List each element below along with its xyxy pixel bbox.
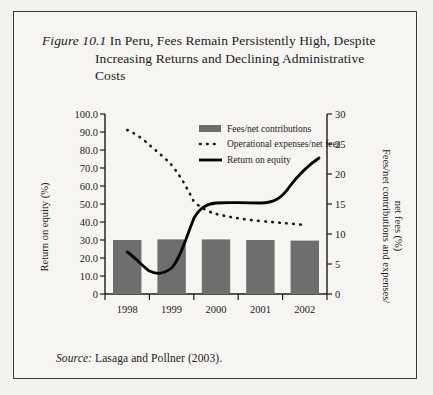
y-axis-tick-labels: 100.0 90.0 80.0 70.0 60.0 50.0 40.0 30.0… — [74, 109, 98, 300]
x-tick-1999: 1999 — [161, 304, 182, 315]
figure-page: Figure 10.1 In Peru, Fees Remain Persist… — [0, 0, 433, 395]
source-label: Source: — [56, 352, 92, 364]
y-tick-90: 90.0 — [80, 127, 98, 138]
bar-1998 — [113, 240, 141, 294]
x-axis-ticks — [105, 294, 327, 300]
y2-tick-20: 20 — [335, 169, 346, 180]
y2-tick-30: 30 — [335, 109, 346, 120]
y-axis-ticks — [100, 114, 105, 294]
source-text: Lasaga and Pollner (2003). — [95, 352, 222, 364]
y-tick-30: 30.0 — [80, 235, 98, 246]
y-tick-60: 60.0 — [80, 181, 98, 192]
y2-axis-tick-labels: 30 25 20 15 10 5 0 — [335, 109, 346, 300]
y2-tick-10: 10 — [335, 229, 346, 240]
y-tick-70: 70.0 — [80, 163, 98, 174]
figure-source: Source: Lasaga and Pollner (2003). — [56, 352, 222, 364]
legend-swatch-fees-net-contributions — [199, 125, 221, 132]
y2-tick-0: 0 — [335, 289, 340, 300]
legend-label-operational-expenses-net-fees: Operational expenses/net fees — [227, 139, 341, 149]
y-axis-title: Return on equity (%) — [39, 182, 51, 271]
chart-svg: Return on equity (%) Fees/net contributi… — [14, 12, 418, 380]
y-tick-40: 40.0 — [80, 217, 98, 228]
legend-label-fees-net-contributions: Fees/net contributions — [227, 124, 311, 134]
bar-2002 — [291, 241, 319, 294]
x-axis-tick-labels: 1998 1999 2000 2001 2002 — [117, 304, 316, 315]
y2-axis-title-line-2: net fees (%) — [392, 201, 404, 252]
y-tick-10: 10.0 — [80, 271, 98, 282]
y-tick-20: 20.0 — [80, 253, 98, 264]
y-tick-80: 80.0 — [80, 145, 98, 156]
figure-frame: Figure 10.1 In Peru, Fees Remain Persist… — [13, 11, 417, 379]
bar-2000 — [202, 239, 230, 294]
y-tick-0: 0 — [93, 289, 98, 300]
y2-tick-5: 5 — [335, 259, 340, 270]
y-tick-50: 50.0 — [80, 199, 98, 210]
legend-label-return-on-equity: Return on equity — [227, 155, 291, 165]
y-tick-100: 100.0 — [74, 109, 98, 120]
y2-axis-title-line-1: Fees/net contributions and expenses/ — [381, 149, 392, 303]
x-tick-2001: 2001 — [250, 304, 271, 315]
x-tick-2002: 2002 — [294, 304, 315, 315]
x-tick-1998: 1998 — [117, 304, 138, 315]
chart-plot-area: Return on equity (%) Fees/net contributi… — [14, 12, 418, 380]
bar-2001 — [246, 240, 274, 294]
x-tick-2000: 2000 — [206, 304, 227, 315]
y2-tick-15: 15 — [335, 199, 346, 210]
